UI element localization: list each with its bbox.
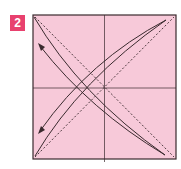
origami-diagram: [0, 0, 181, 169]
